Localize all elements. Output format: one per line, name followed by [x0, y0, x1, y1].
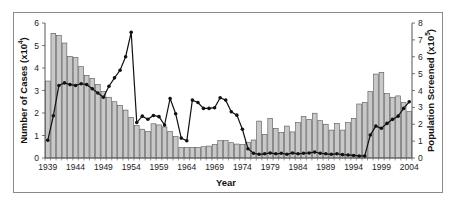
x-tick-label: 1949 — [94, 162, 113, 172]
line-marker — [330, 152, 334, 156]
bar — [351, 118, 356, 158]
line-marker — [241, 128, 245, 132]
line-marker — [124, 55, 128, 59]
line-marker — [63, 81, 67, 85]
x-tick-label: 1979 — [261, 162, 280, 172]
x-tick-label: 1984 — [289, 162, 308, 172]
bar — [346, 123, 351, 158]
bar — [157, 125, 162, 158]
line-marker — [324, 152, 328, 156]
bar — [373, 74, 378, 158]
line-marker — [146, 117, 150, 121]
line-marker — [274, 152, 278, 156]
bar — [190, 147, 195, 158]
bar — [68, 56, 73, 158]
line-marker — [202, 107, 206, 111]
line-marker — [396, 114, 400, 118]
y-left-tick-label: 5 — [34, 41, 39, 51]
bar — [168, 132, 173, 158]
bar — [379, 72, 384, 158]
bar — [196, 147, 201, 158]
line-marker — [252, 151, 256, 155]
line-marker — [135, 121, 139, 125]
line-marker — [385, 122, 389, 126]
bar — [107, 97, 112, 158]
y-right-tick-label: 8 — [418, 18, 423, 28]
bar — [179, 147, 184, 158]
x-tick-label: 1999 — [372, 162, 391, 172]
line-marker — [341, 153, 345, 157]
bar — [145, 132, 150, 158]
line-marker — [407, 100, 411, 104]
x-tick-label: 1969 — [205, 162, 224, 172]
y-left-tick-label: 4 — [34, 63, 39, 73]
line-marker — [280, 151, 284, 155]
bar — [51, 33, 56, 158]
bar — [368, 92, 373, 158]
line-marker — [235, 113, 239, 117]
bar — [73, 58, 78, 158]
bar — [101, 92, 106, 158]
bar — [140, 129, 145, 158]
bar — [173, 137, 178, 158]
bar — [201, 147, 206, 158]
line-marker — [296, 152, 300, 156]
line-marker — [207, 107, 211, 111]
bar — [240, 145, 245, 159]
line-marker — [213, 106, 217, 110]
bar — [79, 67, 84, 158]
line-marker — [96, 91, 100, 95]
bar — [45, 81, 50, 158]
y-right-tick-label: 0 — [418, 153, 423, 163]
bar — [390, 97, 395, 158]
bar — [385, 93, 390, 158]
y-left-tick-label: 2 — [34, 108, 39, 118]
x-tick-label: 1994 — [344, 162, 363, 172]
combo-chart: 0123456012345678193919441949195419591964… — [0, 0, 456, 204]
y-right-axis-title: Population Screened (x105) — [424, 29, 436, 152]
x-tick-label: 1974 — [233, 162, 252, 172]
y-right-tick-label: 2 — [418, 119, 423, 129]
line-marker — [352, 154, 356, 158]
bar — [251, 140, 256, 158]
bar — [134, 125, 139, 158]
y-right-tick-label: 5 — [418, 69, 423, 79]
bar — [118, 105, 123, 158]
y-left-tick-label: 6 — [34, 18, 39, 28]
line-marker — [90, 87, 94, 91]
line-marker — [363, 154, 367, 158]
line-marker — [168, 97, 172, 101]
line-marker — [318, 151, 322, 155]
y-right-tick-label: 4 — [418, 86, 423, 96]
bar — [407, 112, 412, 158]
x-tick-label: 1939 — [38, 162, 57, 172]
line-marker — [102, 95, 106, 99]
line-marker — [335, 152, 339, 156]
line-marker — [191, 98, 195, 102]
line-marker — [229, 110, 233, 114]
line-marker — [307, 151, 311, 155]
line-marker — [369, 133, 373, 137]
line-marker — [357, 154, 361, 158]
line-marker — [291, 151, 295, 155]
line-marker — [257, 152, 261, 156]
bar — [123, 110, 128, 158]
line-marker — [374, 124, 378, 128]
line-marker — [68, 83, 72, 87]
line-marker — [391, 118, 395, 122]
line-marker — [285, 152, 289, 156]
y-right-tick-label: 3 — [418, 102, 423, 112]
line-marker — [52, 114, 56, 118]
bar — [212, 145, 217, 159]
line-marker — [152, 114, 156, 118]
bar — [112, 102, 117, 158]
line-marker — [107, 84, 111, 88]
bar — [229, 143, 234, 158]
bar — [218, 141, 223, 158]
y-left-tick-label: 1 — [34, 131, 39, 141]
x-axis-title: Year — [216, 177, 236, 188]
x-tick-label: 1989 — [316, 162, 335, 172]
line-marker — [79, 82, 83, 86]
bar — [257, 121, 262, 158]
bar — [207, 146, 212, 158]
